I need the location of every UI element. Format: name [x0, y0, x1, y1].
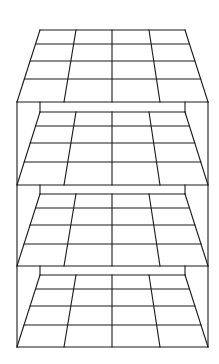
grid-column-line: [149, 112, 160, 185]
level-3: [17, 185, 208, 266]
grid-left-edge: [17, 112, 40, 185]
grid-column-line: [149, 194, 160, 266]
grid-column-line: [64, 275, 76, 347]
diagram-canvas: [0, 0, 219, 364]
grid-left-edge: [17, 275, 40, 347]
grid-right-edge: [185, 30, 208, 102]
grid-column-line: [64, 194, 76, 266]
grid-column-line: [149, 275, 160, 347]
grid-left-edge: [17, 194, 40, 266]
stacked-grid-diagram: [0, 0, 219, 364]
grid-column-line: [64, 112, 76, 185]
grid-right-edge: [185, 194, 208, 266]
grid-column-line: [149, 30, 160, 102]
level-1: [17, 30, 208, 102]
grid-right-edge: [185, 112, 208, 185]
floor-levels: [17, 30, 208, 347]
grid-column-line: [64, 30, 76, 102]
grid-right-edge: [185, 275, 208, 347]
level-4: [17, 266, 208, 347]
level-2: [17, 102, 208, 185]
grid-left-edge: [17, 30, 40, 102]
